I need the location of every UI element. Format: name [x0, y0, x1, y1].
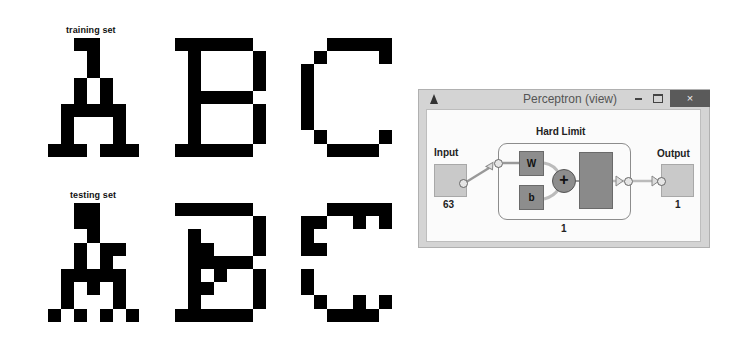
pixel-cell: [201, 295, 214, 308]
pixel-cell: [327, 203, 340, 216]
close-button[interactable]: ×: [670, 90, 710, 107]
pixel-cell: [113, 38, 126, 51]
pixel-cell: [253, 229, 266, 242]
weight-block[interactable]: W: [519, 151, 544, 176]
pixel-cell: [87, 309, 100, 322]
pixel-cell: [100, 117, 113, 130]
pixel-cell: [340, 38, 353, 51]
title-bar[interactable]: Perceptron (view) ×: [419, 90, 709, 108]
pixel-cell: [74, 295, 87, 308]
pixel-cell: [100, 216, 113, 229]
pixel-cell: [379, 91, 392, 104]
pixel-cell: [227, 256, 240, 269]
pixel-cell: [353, 229, 366, 242]
pixel-cell: [214, 243, 227, 256]
pixel-cell: [188, 203, 201, 216]
pixel-cell: [366, 91, 379, 104]
pixel-cell: [227, 144, 240, 157]
pixel-cell: [61, 269, 74, 282]
pixel-cell: [314, 282, 327, 295]
layer-size: 1: [561, 223, 567, 234]
pixel-cell: [201, 282, 214, 295]
pixel-cell: [48, 229, 61, 242]
pixel-cell: [353, 269, 366, 282]
maximize-button[interactable]: [653, 94, 663, 103]
pixel-cell: [100, 78, 113, 91]
pixel-cell: [253, 309, 266, 322]
pixel-cell: [175, 282, 188, 295]
pixel-cell: [227, 282, 240, 295]
pixel-cell: [61, 78, 74, 91]
pixel-cell: [175, 117, 188, 130]
pixel-cell: [87, 38, 100, 51]
window-title: Perceptron (view): [419, 92, 709, 106]
bias-block[interactable]: b: [519, 185, 544, 210]
pixel-cell: [87, 243, 100, 256]
pixel-cell: [100, 91, 113, 104]
pixel-cell: [188, 117, 201, 130]
pixel-cell: [253, 51, 266, 64]
pixel-cell: [188, 51, 201, 64]
hardlim-transfer-block[interactable]: [579, 152, 613, 209]
pixel-cell: [301, 38, 314, 51]
pixel-cell: [74, 243, 87, 256]
pixel-cell: [379, 216, 392, 229]
pixel-cell: [314, 256, 327, 269]
pixel-cell: [314, 203, 327, 216]
pixel-cell: [379, 203, 392, 216]
pixel-cell: [379, 51, 392, 64]
pixel-cell: [175, 229, 188, 242]
pixel-cell: [340, 269, 353, 282]
pixel-cell: [240, 256, 253, 269]
pixel-cell: [74, 309, 87, 322]
pixel-cell: [301, 243, 314, 256]
pixel-cell: [48, 243, 61, 256]
pixel-cell: [353, 117, 366, 130]
pixel-cell: [175, 203, 188, 216]
pixel-cell: [314, 51, 327, 64]
pixel-cell: [240, 243, 253, 256]
pixel-cell: [366, 256, 379, 269]
pixel-cell: [113, 130, 126, 143]
pixel-cell: [201, 78, 214, 91]
pixel-cell: [214, 91, 227, 104]
pixel-cell: [366, 64, 379, 77]
pixel-cell: [61, 51, 74, 64]
pixel-cell: [366, 78, 379, 91]
testing-letter-b: [175, 203, 266, 322]
pixel-cell: [87, 64, 100, 77]
minimize-button[interactable]: [635, 98, 642, 100]
pixel-cell: [340, 91, 353, 104]
pixel-cell: [340, 51, 353, 64]
pixel-cell: [340, 104, 353, 117]
pixel-cell: [87, 144, 100, 157]
pixel-cell: [201, 130, 214, 143]
pixel-cell: [227, 130, 240, 143]
pixel-cell: [314, 104, 327, 117]
pixel-cell: [214, 269, 227, 282]
pixel-cell: [100, 130, 113, 143]
pixel-cell: [240, 295, 253, 308]
pixel-cell: [301, 269, 314, 282]
pixel-cell: [126, 243, 139, 256]
pixel-cell: [379, 282, 392, 295]
pixel-cell: [240, 309, 253, 322]
pixel-cell: [113, 91, 126, 104]
pixel-cell: [126, 216, 139, 229]
pixel-cell: [126, 144, 139, 157]
pixel-cell: [314, 130, 327, 143]
testing-set-label: testing set: [70, 190, 116, 200]
pixel-cell: [61, 203, 74, 216]
input-size: 63: [443, 199, 454, 210]
pixel-cell: [340, 64, 353, 77]
pixel-cell: [253, 104, 266, 117]
pixel-cell: [126, 256, 139, 269]
sum-junction-icon: +: [552, 169, 576, 193]
pixel-cell: [253, 117, 266, 130]
pixel-cell: [113, 309, 126, 322]
pixel-cell: [227, 117, 240, 130]
pixel-cell: [253, 144, 266, 157]
pixel-cell: [188, 295, 201, 308]
pixel-cell: [301, 216, 314, 229]
pixel-cell: [353, 104, 366, 117]
